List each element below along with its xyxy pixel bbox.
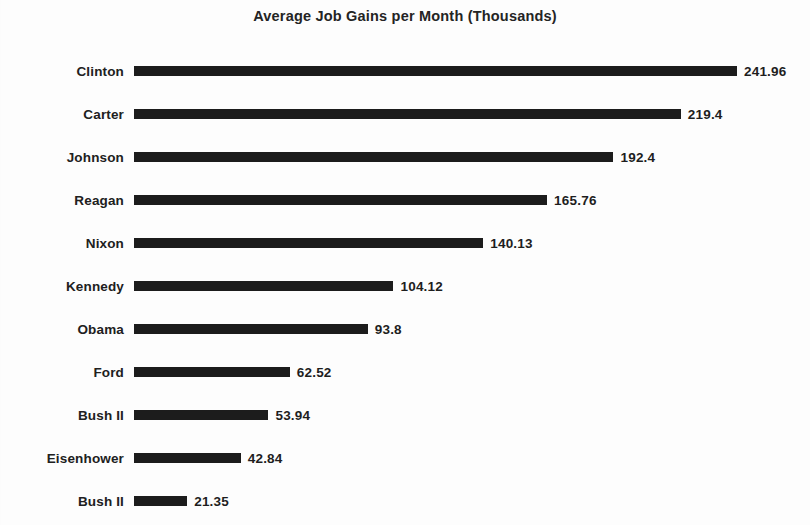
bar-row: Obama93.8 (0, 314, 810, 344)
category-label: Bush II (0, 494, 124, 509)
bar-row: Johnson192.4 (0, 142, 810, 172)
bar-row: Nixon140.13 (0, 228, 810, 258)
category-label: Bush II (0, 408, 124, 423)
bar-value-label: 62.52 (297, 365, 332, 380)
bar-chart: Average Job Gains per Month (Thousands) … (0, 0, 810, 525)
bar-track: 140.13 (134, 228, 533, 258)
bar-track: 219.4 (134, 99, 723, 129)
bar (134, 152, 613, 162)
category-label: Obama (0, 322, 124, 337)
bar (134, 281, 393, 291)
category-label: Nixon (0, 236, 124, 251)
category-label: Carter (0, 107, 124, 122)
bar-value-label: 219.4 (688, 107, 723, 122)
bar-track: 93.8 (134, 314, 402, 344)
category-label: Ford (0, 365, 124, 380)
bar-track: 192.4 (134, 142, 655, 172)
bar-value-label: 192.4 (620, 150, 655, 165)
bar (134, 238, 483, 248)
bar-value-label: 241.96 (744, 64, 787, 79)
plot-area: Clinton241.96Carter219.4Johnson192.4Reag… (0, 50, 810, 520)
bar (134, 496, 187, 506)
bar-value-label: 165.76 (554, 193, 597, 208)
bar-track: 104.12 (134, 271, 443, 301)
bar (134, 410, 268, 420)
bar-value-label: 53.94 (275, 408, 310, 423)
bar (134, 367, 290, 377)
chart-title: Average Job Gains per Month (Thousands) (0, 8, 810, 24)
bar-row: Bush II21.35 (0, 486, 810, 516)
bar (134, 66, 737, 76)
bar-track: 42.84 (134, 443, 283, 473)
bar-value-label: 104.12 (400, 279, 443, 294)
bar (134, 324, 368, 334)
bar-row: Bush II53.94 (0, 400, 810, 430)
bar-value-label: 140.13 (490, 236, 533, 251)
bar (134, 453, 241, 463)
bar (134, 195, 547, 205)
bar-row: Clinton241.96 (0, 56, 810, 86)
bar-row: Carter219.4 (0, 99, 810, 129)
bar-track: 241.96 (134, 56, 787, 86)
category-label: Reagan (0, 193, 124, 208)
category-label: Johnson (0, 150, 124, 165)
bar-track: 62.52 (134, 357, 332, 387)
bar-row: Eisenhower42.84 (0, 443, 810, 473)
bar-value-label: 93.8 (375, 322, 402, 337)
bar-track: 165.76 (134, 185, 597, 215)
bar-row: Ford62.52 (0, 357, 810, 387)
bar-track: 53.94 (134, 400, 310, 430)
bar (134, 109, 681, 119)
bar-value-label: 42.84 (248, 451, 283, 466)
bar-row: Reagan165.76 (0, 185, 810, 215)
bar-value-label: 21.35 (194, 494, 229, 509)
bar-row: Kennedy104.12 (0, 271, 810, 301)
bar-track: 21.35 (134, 486, 229, 516)
category-label: Clinton (0, 64, 124, 79)
category-label: Kennedy (0, 279, 124, 294)
category-label: Eisenhower (0, 451, 124, 466)
